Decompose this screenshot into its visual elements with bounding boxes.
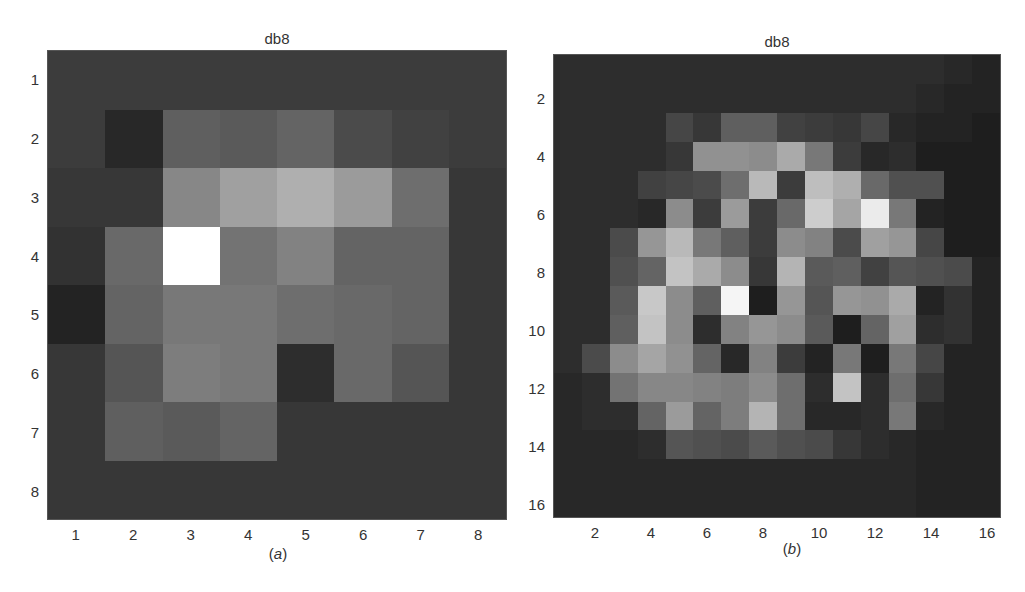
x-tick-label: 14 (916, 524, 946, 541)
heatmap-cell (805, 430, 833, 459)
heatmap-cell (220, 110, 277, 169)
heatmap-cell (889, 402, 917, 431)
heatmap-cell (277, 344, 334, 403)
heatmap-cell (610, 488, 638, 517)
heatmap-cell (105, 344, 162, 403)
heatmap-cell (972, 55, 1000, 84)
heatmap-cell (944, 84, 972, 113)
heatmap-cell (916, 315, 944, 344)
heatmap-cell (861, 488, 889, 517)
heatmap-cell (833, 430, 861, 459)
heatmap-cell (972, 171, 1000, 200)
heatmap-cell (693, 228, 721, 257)
heatmap-cell (666, 373, 694, 402)
heatmap-cell (638, 488, 666, 517)
heatmap-cell (805, 171, 833, 200)
heatmap-cell (220, 461, 277, 520)
heatmap-cell (777, 84, 805, 113)
heatmap-cell (889, 228, 917, 257)
heatmap-cell (833, 257, 861, 286)
x-tick-label: 5 (291, 526, 321, 543)
heatmap-cell (861, 55, 889, 84)
heatmap-cell (721, 373, 749, 402)
heatmap-cell (749, 488, 777, 517)
heatmap-cell (916, 373, 944, 402)
heatmap-cell (916, 402, 944, 431)
heatmap-cell (554, 171, 582, 200)
heatmap-cell (220, 344, 277, 403)
heatmap-cell (449, 110, 506, 169)
heatmap-cell (833, 228, 861, 257)
heatmap-cell (749, 286, 777, 315)
heatmap-cell (777, 286, 805, 315)
heatmap-cell (972, 459, 1000, 488)
heatmap-cell (638, 402, 666, 431)
heatmap-cell (163, 110, 220, 169)
heatmap-cell (693, 315, 721, 344)
heatmap-cell (889, 373, 917, 402)
heatmap-cell (554, 113, 582, 142)
heatmap-cell (972, 228, 1000, 257)
x-tick-label: 10 (804, 524, 834, 541)
heatmap-cell (554, 228, 582, 257)
heatmap-cell (721, 171, 749, 200)
heatmap-cell (666, 286, 694, 315)
heatmap-cell (693, 55, 721, 84)
heatmap-cell (105, 285, 162, 344)
heatmap-cell (721, 199, 749, 228)
heatmap-cell (610, 228, 638, 257)
heatmap-cell (916, 286, 944, 315)
heatmap-cell (334, 285, 391, 344)
x-tick-label: 8 (748, 524, 778, 541)
heatmap-cell (972, 84, 1000, 113)
heatmap-cell (944, 315, 972, 344)
heatmap-cell (944, 199, 972, 228)
heatmap-cell (972, 430, 1000, 459)
heatmap-cell (392, 285, 449, 344)
heatmap-cell (861, 402, 889, 431)
heatmap-cell (277, 227, 334, 286)
heatmap-cell (972, 344, 1000, 373)
heatmap-cell (833, 286, 861, 315)
heatmap-cell (721, 344, 749, 373)
heatmap-cell (693, 286, 721, 315)
heatmap-cell (220, 51, 277, 110)
heatmap-cell (554, 84, 582, 113)
heatmap-cell (666, 171, 694, 200)
heatmap-cell (105, 227, 162, 286)
heatmap-cell (777, 315, 805, 344)
heatmap-cell (666, 315, 694, 344)
heatmap-cell (638, 315, 666, 344)
heatmap-cell (582, 488, 610, 517)
heatmap-cell (449, 461, 506, 520)
heatmap-cell (916, 257, 944, 286)
heatmap-cell (582, 171, 610, 200)
heatmap-cell (48, 227, 105, 286)
heatmap-cell (721, 228, 749, 257)
heatmap-cell (449, 227, 506, 286)
heatmap-cell (916, 430, 944, 459)
heatmap-cell (610, 402, 638, 431)
heatmap-cell (944, 171, 972, 200)
heatmap-cell (721, 286, 749, 315)
heatmap-cell (805, 286, 833, 315)
heatmap-cell (449, 402, 506, 461)
heatmap-cell (48, 344, 105, 403)
heatmap-cell (693, 459, 721, 488)
heatmap-cell (805, 488, 833, 517)
heatmap-cell (666, 459, 694, 488)
heatmap-cell (916, 344, 944, 373)
heatmap-cell (582, 84, 610, 113)
heatmap-cell (972, 257, 1000, 286)
heatmap-cell (582, 459, 610, 488)
heatmap-cell (777, 199, 805, 228)
heatmap-cell (777, 488, 805, 517)
heatmap-cell (48, 110, 105, 169)
heatmap-cell (610, 142, 638, 171)
heatmap-cell (582, 344, 610, 373)
heatmap-cell (861, 257, 889, 286)
heatmap-cell (805, 344, 833, 373)
heatmap-cell (693, 402, 721, 431)
x-tick-label: 12 (860, 524, 890, 541)
x-tick-label: 4 (233, 526, 263, 543)
